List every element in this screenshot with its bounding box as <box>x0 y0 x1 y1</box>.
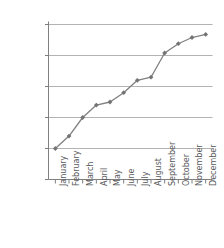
x-axis-tick-label: July <box>141 171 150 185</box>
x-axis-tick-label: February <box>72 150 81 185</box>
x-axis-tick-label: October <box>182 153 191 185</box>
x-axis-tick-label: June <box>127 168 136 185</box>
x-axis-tick-label: March <box>86 161 95 185</box>
x-axis-tick-label: January <box>59 155 68 185</box>
x-axis-labels: JanuaryFebruaryMarchAprilMayJuneJulyAugu… <box>0 0 224 248</box>
x-axis-tick-label: May <box>113 169 122 186</box>
line-chart: $1,450$1,500$1,550$1,600$1,650$1,700 Jan… <box>0 0 224 248</box>
x-axis-tick-label: November <box>195 144 204 186</box>
x-axis-tick-label: August <box>154 158 163 186</box>
x-axis-tick-label: April <box>100 167 109 185</box>
x-axis-tick-label: December <box>209 144 218 185</box>
x-axis-tick-label: September <box>168 141 177 185</box>
